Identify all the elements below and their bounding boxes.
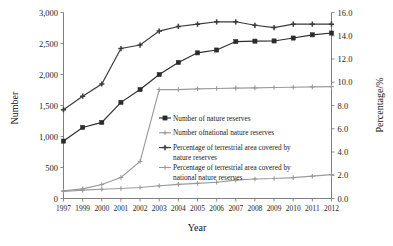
y-axis-right-tick-label: 6.0: [338, 124, 349, 134]
legend-label: nature reserves: [173, 153, 217, 162]
x-axis-tick-label: 1997: [56, 204, 71, 213]
data-point-marker: [329, 31, 333, 35]
x-axis-tick-label: 2009: [267, 204, 282, 213]
y-axis-right-tick-label: 2.0: [338, 170, 349, 180]
data-point-marker: [81, 125, 85, 129]
data-point-marker: [195, 22, 200, 27]
data-point-marker: [233, 19, 238, 24]
x-axis-tick-label: 2008: [248, 204, 263, 213]
data-point-marker: [272, 176, 277, 181]
data-series: [61, 19, 334, 112]
data-point-marker: [310, 174, 315, 179]
data-point-marker: [61, 189, 66, 194]
data-point-marker: [291, 22, 296, 27]
data-point-marker: [253, 177, 258, 182]
chart-canvas: 05001,0001,5002,0002,5003,000 0.02.04.06…: [0, 0, 393, 246]
data-point-marker: [252, 23, 257, 28]
y-axis-right-tick-label: 8.0: [338, 101, 349, 111]
y-axis-left-tick-label: 1,000: [39, 132, 58, 142]
data-point-marker: [157, 87, 162, 92]
data-point-marker: [99, 182, 104, 187]
data-point-marker: [163, 116, 167, 120]
x-axis-tick-label: 2005: [190, 204, 205, 213]
x-axis-tick-label: 2001: [114, 204, 129, 213]
data-point-marker: [234, 39, 238, 43]
y-axis-left-title: Number: [9, 91, 20, 124]
x-axis-tick-label: 2011: [305, 204, 320, 213]
y-axis-left-tick-label: 0: [54, 194, 58, 204]
chart-figure: 05001,0001,5002,0002,5003,000 0.02.04.06…: [0, 0, 393, 246]
data-point-marker: [271, 25, 276, 30]
data-point-marker: [100, 120, 104, 124]
data-point-marker: [157, 183, 162, 188]
legend-label: Number ofnational nature reserves: [173, 128, 274, 137]
data-point-marker: [233, 86, 238, 91]
x-axis-tick-label: 2012: [324, 204, 339, 213]
data-point-marker: [253, 39, 257, 43]
data-point-marker: [214, 19, 219, 24]
data-point-marker: [215, 48, 219, 52]
x-axis-tick-label: 2003: [152, 204, 167, 213]
data-point-marker: [329, 22, 334, 27]
x-axis-tick-label: 2006: [209, 204, 224, 213]
x-axis-tick-label: 2010: [286, 204, 301, 213]
data-point-marker: [176, 60, 180, 64]
data-point-marker: [162, 145, 167, 150]
series-line: [64, 22, 332, 110]
legend-label: Percentage of terrestrial area covered b…: [173, 143, 291, 152]
x-axis-title: Year: [188, 222, 207, 233]
data-point-marker: [310, 85, 315, 90]
y-axis-right-tick-label: 4.0: [338, 147, 349, 157]
y-axis-left-tick-label: 2,000: [39, 70, 58, 80]
data-point-marker: [310, 22, 315, 27]
y-axis-left-tick-label: 3,000: [39, 8, 58, 18]
legend-symbol: [159, 130, 171, 135]
x-axis-tick-label: 2002: [133, 204, 148, 213]
data-point-marker: [163, 165, 168, 170]
x-axis: 1997199920002001200220032004200520062007…: [56, 199, 339, 213]
chart-legend: Number of nature reservesNumber ofnation…: [159, 114, 291, 182]
data-point-marker: [272, 39, 276, 43]
data-point-marker: [272, 85, 277, 90]
data-point-marker: [195, 51, 199, 55]
data-point-marker: [163, 130, 168, 135]
y-axis-left: 05001,0001,5002,0002,5003,000: [39, 8, 64, 204]
y-axis-right-title: Percentage/%: [374, 78, 385, 133]
x-axis-tick-label: 2004: [171, 204, 186, 213]
x-axis-tick-label: 2007: [228, 204, 243, 213]
data-point-marker: [214, 86, 219, 91]
data-point-marker: [119, 186, 124, 191]
data-point-marker: [157, 72, 161, 76]
data-point-marker: [195, 181, 200, 186]
legend-symbol: [159, 145, 171, 150]
data-point-marker: [176, 24, 181, 29]
data-point-marker: [176, 87, 181, 92]
data-point-marker: [291, 175, 296, 180]
data-point-marker: [329, 172, 334, 177]
data-point-marker: [118, 46, 123, 51]
data-point-marker: [310, 33, 314, 37]
data-point-marker: [138, 185, 143, 190]
legend-label: Number of nature reserves: [173, 114, 251, 123]
data-point-marker: [99, 187, 104, 192]
data-point-marker: [253, 86, 258, 91]
y-axis-right: 0.02.04.06.08.010.012.014.016.0: [332, 8, 353, 204]
legend-symbol: [159, 116, 171, 120]
data-point-marker: [176, 182, 181, 187]
data-point-marker: [138, 87, 142, 91]
x-axis-tick-label: 2000: [94, 204, 109, 213]
legend-label: Percentage of terrestrial area covered b…: [173, 163, 291, 172]
data-point-marker: [195, 87, 200, 92]
y-axis-right-tick-label: 16.0: [338, 8, 353, 18]
legend-symbol: [159, 165, 171, 170]
data-point-marker: [119, 100, 123, 104]
y-axis-left-tick-label: 500: [45, 163, 58, 173]
data-point-marker: [329, 84, 334, 89]
data-point-marker: [291, 85, 296, 90]
legend-label: national nature reserves: [173, 173, 242, 182]
y-axis-left-tick-label: 1,500: [39, 101, 58, 111]
y-axis-right-tick-label: 10.0: [338, 77, 353, 87]
x-axis-tick-label: 1999: [75, 204, 90, 213]
data-point-marker: [291, 36, 295, 40]
y-axis-right-tick-label: 0.0: [338, 194, 349, 204]
